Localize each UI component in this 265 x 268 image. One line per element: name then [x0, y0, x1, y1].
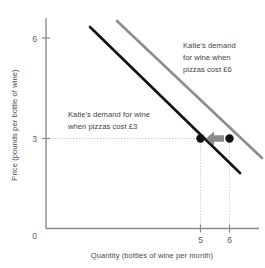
label-demand-pizza-6: Katie's demand for wine when pizzas cost…	[183, 41, 236, 74]
x-axis-label: Quantity (bottles of wine per month)	[91, 251, 214, 260]
label-demand-pizza-3-line-2: when pizzas cost £3	[67, 122, 137, 131]
demand-curve-chart: 6 3 0 5 6 Quantity (bottles of wine per …	[0, 0, 265, 268]
label-demand-pizza-6-line-2: for wine when	[183, 53, 231, 62]
origin-label: 0	[32, 231, 37, 241]
label-demand-pizza-6-line-1: Katie's demand	[183, 41, 236, 50]
x-tick-label-5: 5	[198, 235, 203, 245]
y-tick-label-6: 6	[32, 34, 37, 44]
y-axis-label: Price (pounds per bottle of wine)	[10, 69, 19, 181]
chart-canvas: 6 3 0 5 6 Quantity (bottles of wine per …	[0, 0, 265, 268]
data-point-quantity-6	[225, 134, 233, 142]
label-demand-pizza-3-line-1: Katie's demand for wine	[68, 110, 150, 119]
x-tick-label-6: 6	[227, 235, 232, 245]
y-tick-label-3: 3	[32, 134, 37, 144]
label-demand-pizza-6-line-3: pizzas cost £6	[183, 65, 232, 74]
data-point-quantity-5	[196, 134, 204, 142]
